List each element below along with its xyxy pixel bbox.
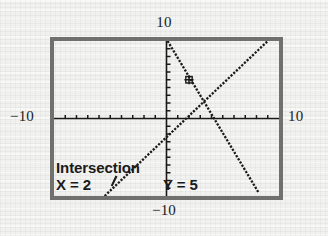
figure-stage: 10 −10 −10 10 Intersection X = 2 Y = 5 bbox=[0, 0, 328, 236]
intersection-readout-y: Y = 5 bbox=[163, 176, 198, 193]
axis-label-x-min: −10 bbox=[10, 108, 34, 125]
axis-label-x-max: 10 bbox=[288, 108, 303, 125]
axis-label-y-max: 10 bbox=[0, 14, 328, 31]
intersection-readout-x: X = 2 bbox=[56, 176, 91, 193]
axis-label-y-min: −10 bbox=[0, 202, 328, 219]
intersection-readout-title: Intersection bbox=[56, 159, 140, 176]
intersection-marker bbox=[184, 75, 193, 84]
blinking-cursor-icon bbox=[110, 175, 118, 187]
